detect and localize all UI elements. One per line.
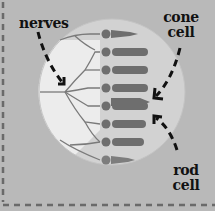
label-rod-cell: rod cell (162, 163, 210, 193)
label-cone-line1: cone (157, 10, 205, 25)
label-rod-line2: cell (162, 178, 210, 193)
label-cone-line2: cell (157, 25, 205, 40)
label-rod-line1: rod (162, 163, 210, 178)
label-nerves: nerves (19, 16, 69, 31)
label-cone-cell: cone cell (157, 10, 205, 40)
